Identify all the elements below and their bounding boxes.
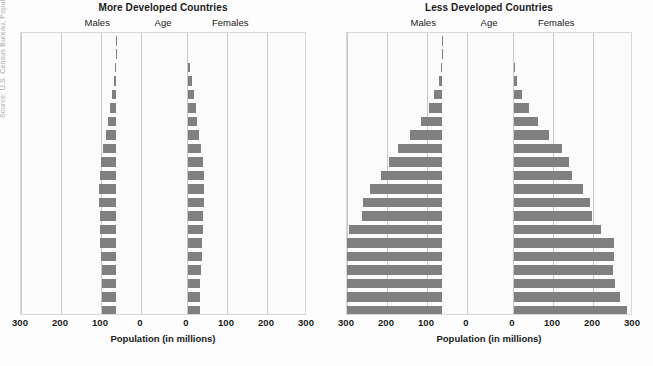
x-tick-label: 100 [418, 317, 434, 328]
bar-female [187, 292, 200, 302]
bar-female [187, 90, 194, 100]
bar-male [346, 292, 442, 302]
bar-male [381, 171, 442, 181]
bar-male [100, 238, 116, 248]
bar-male [102, 306, 116, 315]
bar-male [362, 211, 442, 221]
x-tick-label: 100 [92, 317, 108, 328]
bar-female [513, 117, 538, 127]
x-axis-title-left: Population (in millions) [20, 333, 306, 344]
chart-title-left: More Developed Countries [0, 2, 326, 13]
bar-male [102, 279, 116, 289]
x-tick-label: 0 [509, 317, 514, 328]
bar-male [349, 225, 442, 235]
bar-female [513, 198, 590, 208]
bar-female [513, 157, 569, 167]
bar-male [346, 279, 442, 289]
bar-female [187, 130, 199, 140]
x-tick-label: 200 [584, 317, 600, 328]
age-column-band [467, 33, 513, 314]
bar-male [429, 103, 442, 113]
x-tick-label: 200 [378, 317, 394, 328]
bar-male [421, 117, 442, 127]
bar-female [513, 184, 583, 194]
bar-male [434, 90, 442, 100]
bar-male [101, 252, 116, 262]
header-females-right: Females [538, 17, 574, 28]
bar-male [100, 225, 116, 235]
bar-male [110, 103, 116, 113]
chart-title-right: Less Developed Countries [326, 2, 652, 13]
x-tick-label: 100 [544, 317, 560, 328]
bar-female [187, 211, 203, 221]
bar-female [187, 306, 200, 315]
x-tick-label: 100 [218, 317, 234, 328]
age-column-band [141, 33, 187, 314]
bar-female [187, 171, 204, 181]
bar-male [102, 265, 116, 275]
bar-female [513, 211, 592, 221]
bar-male [100, 211, 116, 221]
bar-female [187, 103, 196, 113]
plot-area-left: 100+95–9990–9485–8980–8475–7970–7465–696… [20, 32, 306, 315]
column-headers-left: Males Age Females [20, 17, 306, 31]
header-males-right: Males [411, 17, 436, 28]
bar-female [513, 144, 562, 154]
bar-male [103, 144, 116, 154]
gridline-zero-male [141, 33, 142, 314]
chart-less-developed-countries: Less Developed Countries Males Age Femal… [326, 0, 652, 366]
bar-female [513, 279, 615, 289]
bar-female [513, 103, 529, 113]
bar-female [187, 238, 202, 248]
x-tick-label: 300 [624, 317, 640, 328]
x-tick-label: 300 [12, 317, 28, 328]
x-tick-label: 0 [463, 317, 468, 328]
x-tick-label: 0 [137, 317, 142, 328]
x-axis-left: 30020010000100200300 [20, 315, 306, 331]
bar-male [346, 238, 442, 248]
gridline-zero-female [513, 33, 514, 314]
bar-female [513, 265, 613, 275]
x-axis-right: 30020010000100200300 [346, 315, 632, 331]
x-tick-label: 200 [52, 317, 68, 328]
bar-female [187, 184, 204, 194]
bar-female [513, 238, 614, 248]
bar-female [513, 171, 572, 181]
bar-female [187, 265, 201, 275]
charts-container: More Developed Countries Males Age Femal… [0, 0, 653, 366]
bar-male [398, 144, 442, 154]
x-axis-title-right: Population (in millions) [346, 333, 632, 344]
bar-female [513, 76, 517, 86]
bar-male [439, 76, 442, 86]
bar-male [346, 252, 442, 262]
bar-female [187, 157, 203, 167]
bar-female [513, 306, 627, 315]
bar-female [513, 90, 522, 100]
bar-female [513, 225, 601, 235]
header-age-left: Age [155, 17, 172, 28]
header-females-left: Females [212, 17, 248, 28]
bar-female [187, 279, 200, 289]
bar-female [187, 225, 203, 235]
bar-male [100, 171, 116, 181]
gridline-zero-female [187, 33, 188, 314]
bar-female [513, 292, 620, 302]
column-headers-right: Males Age Females [346, 17, 632, 31]
bar-male [115, 63, 116, 73]
bar-male [106, 130, 116, 140]
bar-male [114, 76, 116, 86]
bar-male [108, 117, 116, 127]
bar-male [346, 265, 442, 275]
bar-male [99, 198, 116, 208]
gridline-zero-male [467, 33, 468, 314]
header-males-left: Males [85, 17, 110, 28]
bar-female [187, 76, 192, 86]
plot-area-right: 100+95–9990–9485–8980–8475–7970–7465–696… [346, 32, 632, 315]
bar-male [101, 157, 116, 167]
bar-female [187, 144, 201, 154]
x-tick-label: 300 [298, 317, 314, 328]
bar-female [187, 198, 204, 208]
bar-male [346, 306, 442, 315]
bar-female [513, 252, 614, 262]
bar-male [102, 292, 116, 302]
